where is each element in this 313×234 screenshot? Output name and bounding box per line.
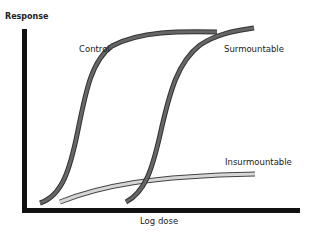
- insurmountable-label: Insurmountable: [225, 157, 292, 167]
- control-label: Control: [79, 44, 110, 54]
- surmountable-label: Surmountable: [224, 44, 284, 54]
- insurmountable-curve: [60, 174, 255, 202]
- y-axis: [22, 29, 27, 212]
- dose-response-chart: [0, 0, 313, 234]
- x-axis-label: Log dose: [140, 216, 178, 226]
- y-axis-label: Response: [5, 12, 48, 21]
- x-axis: [22, 208, 300, 213]
